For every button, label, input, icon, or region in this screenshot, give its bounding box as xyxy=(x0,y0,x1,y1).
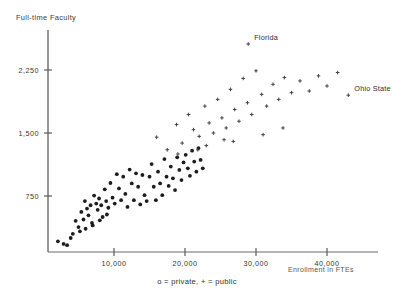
y-tick-label: 750 xyxy=(0,192,39,201)
legend: o = private, + = public xyxy=(0,277,394,286)
annotation-ohio-state: Ohio State xyxy=(354,84,390,93)
x-tick-label: 20,000 xyxy=(155,259,215,268)
y-tick-label: 1,500 xyxy=(0,129,39,138)
series-public xyxy=(155,42,350,156)
annotation-florida: Florida xyxy=(254,33,278,42)
scatter-plot: Full-time Faculty Enrollment in FTEs 750… xyxy=(0,0,394,306)
series-private xyxy=(56,146,205,247)
y-axis-title: Full-time Faculty xyxy=(16,13,76,22)
x-tick-label: 40,000 xyxy=(297,259,357,268)
x-tick-label: 30,000 xyxy=(226,259,286,268)
y-tick-label: 2,250 xyxy=(0,66,39,75)
x-tick-label: 10,000 xyxy=(84,259,144,268)
